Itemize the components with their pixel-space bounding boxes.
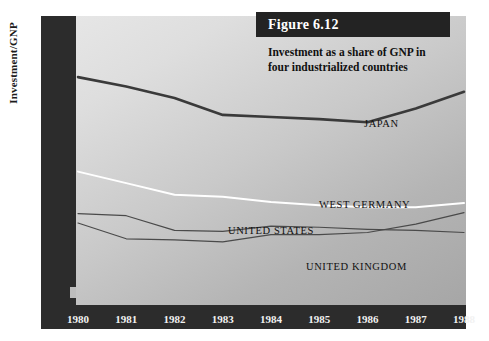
series-label-west-germany: WEST GERMANY	[319, 199, 410, 210]
figure-subtitle-line-1: Investment as a share of GNP in	[268, 45, 464, 60]
figure-container: Investment/GNP 0.340.300.260.220.180.140…	[0, 0, 489, 341]
x-tick-label: 1987	[392, 313, 440, 325]
x-tick-label: 1988	[440, 313, 488, 325]
y-axis-band	[41, 16, 76, 329]
x-tick-label: 1986	[344, 313, 392, 325]
x-tick-label: 1982	[151, 313, 199, 325]
figure-subtitle-line-2: four industrialized countries	[268, 60, 464, 75]
figure-number-box: Figure 6.12	[256, 12, 450, 37]
figure-number-label: Figure 6.12	[256, 17, 339, 33]
y-axis-title: Investment/GNP	[7, 3, 19, 123]
x-tick-label: 1985	[295, 313, 343, 325]
series-line-japan	[78, 77, 464, 122]
series-label-united-kingdom: UNITED KINGDOM	[306, 261, 407, 272]
series-label-japan: JAPAN	[364, 118, 399, 129]
x-tick-label: 1980	[54, 313, 102, 325]
figure-subtitle: Investment as a share of GNP in four ind…	[268, 45, 464, 75]
x-tick-label: 1983	[199, 313, 247, 325]
x-tick-label: 1981	[102, 313, 150, 325]
series-label-united-states: UNITED STATES	[228, 225, 314, 236]
x-tick-label: 1984	[247, 313, 295, 325]
